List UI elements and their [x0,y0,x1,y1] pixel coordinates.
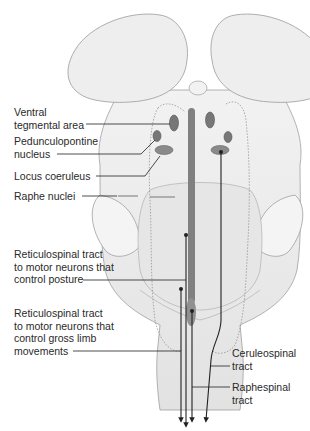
raphe-column [188,108,195,303]
vta-right [206,112,215,128]
vta-left [170,115,179,131]
posture-origin-dot [184,233,188,237]
ceruleospinal-origin-dot [219,150,223,154]
lc-left [155,146,173,155]
pineal-region [189,81,207,95]
label-raphespinal-tract: Raphespinal tract [232,381,290,406]
ppn-left [153,131,161,142]
raphespinal-origin-dot [190,309,194,313]
label-raphe-nuclei: Raphe nuclei [14,190,75,203]
pons [138,183,262,311]
limb-origin-dot [179,287,183,291]
label-reticulospinal-posture: Reticulospinal tract to motor neurons th… [14,248,114,286]
left-hemisphere [68,14,188,102]
label-pedunculopontine-nucleus: Pedunculopontine nucleus [14,135,98,160]
ppn-right [224,132,232,143]
right-hemisphere [211,14,310,102]
label-ceruleospinal-tract: Ceruleospinal tract [232,347,296,372]
label-locus-coeruleus: Locus coeruleus [14,170,90,183]
label-ventral-tegmental-area: Ventral tegmental area [14,106,84,131]
label-reticulospinal-limb: Reticulospinal tract to motor neurons th… [14,307,114,357]
